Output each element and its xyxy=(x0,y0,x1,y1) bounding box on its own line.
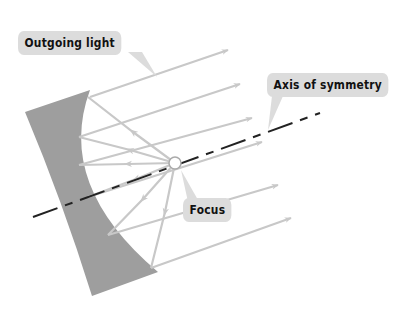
axis-pointer xyxy=(268,96,283,130)
outgoing-light-label: Outgoing light xyxy=(18,31,121,55)
parabolic-mirror xyxy=(25,90,158,296)
focus-point-icon xyxy=(169,157,181,169)
focus-label: Focus xyxy=(183,198,232,222)
axis-of-symmetry-label: Axis of symmetry xyxy=(267,73,389,97)
outgoing-rays xyxy=(79,50,291,268)
outgoing-light-pointer xyxy=(128,52,157,77)
